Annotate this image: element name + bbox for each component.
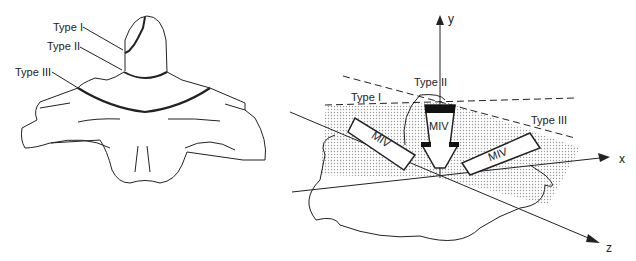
leader-type3 (52, 72, 78, 88)
body-detail (40, 103, 245, 172)
dens-outline (125, 16, 167, 72)
figure: Type I Type II Type III MIV MI (0, 0, 636, 261)
x-axis-arrow-icon (598, 153, 610, 162)
y-axis-label: y (448, 12, 454, 26)
z-axis-label: z (606, 241, 612, 255)
left-label-type1: Type I (53, 21, 83, 33)
right-label-type1: Type I (351, 91, 381, 103)
left-label-type3: Type III (15, 66, 51, 78)
x-axis-label: x (619, 152, 625, 166)
leader-type1 (83, 27, 123, 50)
fracture-type2 (124, 72, 167, 78)
fracture-type3 (78, 88, 210, 112)
z-axis-arrow-icon (586, 234, 600, 243)
right-label-type3: Type III (531, 114, 567, 126)
leader-type2 (80, 47, 122, 70)
body-outline (21, 72, 265, 183)
miv-label-center: MIV (429, 120, 449, 132)
diagram-canvas: Type I Type II Type III MIV MI (0, 0, 636, 261)
right-label-type2: Type II (414, 76, 447, 88)
right-vertebra (290, 15, 610, 243)
left-label-type2: Type II (47, 40, 80, 52)
y-axis-arrow-icon (436, 15, 444, 25)
